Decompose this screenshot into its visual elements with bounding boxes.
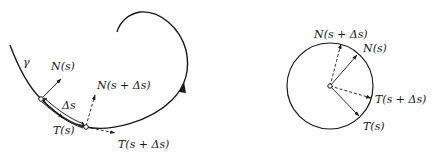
- circle-label-normal-s-ds: N(s + Δs): [313, 28, 368, 41]
- label-tangent-s: T(s): [53, 124, 75, 137]
- curve-figure: γ N(s) N(s + Δs) Δs T(s) T(s + Δs): [10, 12, 187, 151]
- normal-vector-s-ds: [86, 95, 95, 126]
- tangent-vector-s: [41, 99, 63, 118]
- point-s-ds: [84, 125, 89, 130]
- label-tangent-s-ds: T(s + Δs): [118, 138, 169, 151]
- curve-gamma: [10, 12, 187, 128]
- label-normal-s-ds: N(s + Δs): [96, 79, 151, 92]
- circle-center: [328, 84, 332, 88]
- curve-label: γ: [23, 56, 30, 69]
- label-delta-s: Δs: [61, 99, 76, 112]
- label-normal-s: N(s): [50, 60, 75, 73]
- direction-arrow-icon: [179, 82, 186, 93]
- normal-vector-s: [41, 79, 61, 99]
- point-s: [39, 97, 44, 102]
- unit-circle-figure: N(s + Δs) N(s) T(s + Δs) T(s): [287, 28, 426, 133]
- circle-label-normal-s: N(s): [362, 42, 387, 55]
- diagram-canvas: γ N(s) N(s + Δs) Δs T(s) T(s + Δs) N(s +…: [0, 0, 432, 156]
- circle-label-tangent-s: T(s): [363, 120, 385, 133]
- circle-label-tangent-s-ds: T(s + Δs): [375, 93, 426, 106]
